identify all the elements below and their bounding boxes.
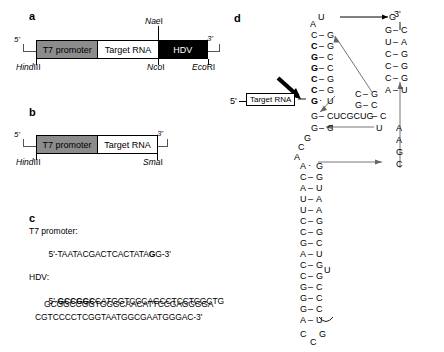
panel-d-right-l2: C — [385, 50, 392, 59]
panel-b-segment-promoter: T7 promoter — [37, 136, 98, 153]
panel-b-three-prime-label: 3' — [157, 129, 163, 138]
panel-d-lower-b2: – — [308, 184, 313, 193]
panel-d-loop-nt-a: A — [310, 20, 316, 29]
panel-d-lower-r10: G — [316, 272, 323, 281]
panel-c-t7-heading: T7 promoter: — [29, 226, 78, 236]
panel-d-lower-r6: G — [316, 228, 323, 237]
panel-b-three-prime-tick — [167, 139, 168, 147]
panel-d-right-r5: U — [401, 86, 408, 95]
panel-d-lower-loop-bottom: C — [310, 338, 317, 347]
panel-d-lower-l0: A — [300, 162, 306, 171]
panel-d-left-stem-r5: G — [327, 86, 334, 95]
panel-b-letter: b — [29, 106, 36, 118]
panel-d-lower-l4: U — [300, 206, 307, 215]
panel-d-lower-l11: G — [300, 283, 307, 292]
panel-d-second-pair-left: G — [311, 124, 318, 133]
panel-a-segment-target: Target RNA — [98, 41, 157, 58]
panel-d-five-prime-lead — [239, 101, 246, 102]
panel-c-t7-seq-post: G-3' — [155, 249, 170, 259]
panel-d-right-l0: G — [385, 26, 392, 35]
panel-d-right-b1: – — [393, 38, 398, 47]
panel-d-lower-l5: C — [300, 217, 307, 226]
panel-d-lower-r11: C — [316, 283, 323, 292]
panel-d-right-b4: – — [393, 74, 398, 83]
panel-d-second-pair-bond: – — [319, 124, 324, 133]
panel-d-left-stem-b3: – — [319, 64, 324, 73]
panel-d-right-tail-u: U — [376, 124, 383, 133]
panel-d-lower-r1: G — [316, 173, 323, 182]
panel-d-right-r0: C — [401, 26, 408, 35]
panel-d-lower-b1: – — [308, 173, 313, 182]
panel-d-lower-r13: C — [316, 305, 323, 314]
panel-d-five-prime-label: 5' — [230, 97, 237, 106]
panel-d-lower-l10: C — [300, 272, 307, 281]
panel-b-bar: T7 promoter Target RNA — [36, 135, 158, 154]
panel-a-enzyme-nae-italic: Nae — [145, 16, 161, 26]
panel-d-left-stem-l4: C — [311, 75, 318, 84]
panel-a-letter: a — [29, 10, 35, 22]
panel-d-lower-b7: – — [308, 239, 313, 248]
panel-a-enzyme-nco-plain: I — [162, 62, 164, 72]
panel-d-left-stem-b5: – — [319, 86, 324, 95]
panel-d-lower-b13: – — [308, 305, 313, 314]
panel-d-lower-l14: A — [300, 316, 306, 325]
panel-a-five-prime-label: 5' — [14, 35, 20, 44]
panel-d-right-r4: G — [401, 74, 408, 83]
panel-a-bar: T7 promoter Target RNA HDV — [36, 40, 208, 59]
panel-d-left-stem-r4: G — [327, 75, 334, 84]
panel-d-second-pair-right: C — [327, 124, 334, 133]
panel-d-lower-r3: A — [316, 195, 322, 204]
panel-d-junction-bond-right: – — [372, 112, 377, 121]
panel-d-target-rna-box: Target RNA — [246, 93, 295, 106]
panel-d-lower-b5: – — [308, 217, 313, 226]
panel-d-right-r2: G — [401, 50, 408, 59]
panel-d-right-r3: G — [401, 62, 408, 71]
panel-a-enzyme-hind-plain: III — [33, 62, 40, 72]
panel-d-rightlow-r0: G — [371, 90, 378, 99]
panel-d-lower-l13: G — [300, 305, 307, 314]
panel-a-enzyme-nco: NcoI — [147, 62, 165, 72]
panel-d-right-l3: C — [385, 62, 392, 71]
panel-a-enzyme-hind: HindIII — [16, 62, 41, 72]
panel-a-five-prime-lead — [23, 51, 36, 52]
panel-d-lower-b6: – — [308, 228, 313, 237]
panel-d-lower-l15: C — [300, 330, 307, 339]
panel-d-rightlow-r1: C — [371, 101, 378, 110]
panel-b-enzyme-hind-italic: Hind — [16, 157, 33, 167]
panel-d-lower-b4: – — [308, 206, 313, 215]
panel-d-rightlow-l1: G — [355, 101, 362, 110]
panel-d-junction-left: G — [311, 112, 318, 121]
panel-d-left-stem-l6: G — [311, 97, 318, 106]
panel-a-three-prime-label: 3' — [207, 34, 213, 43]
panel-d-lower-l8: A — [300, 250, 306, 259]
panel-a-segment-hdv: HDV — [158, 41, 207, 58]
panel-d-left-stem-r6: U — [327, 97, 334, 106]
panel-d-junction-right: C — [380, 112, 387, 121]
panel-b-enzyme-sma: SmaI — [143, 157, 163, 167]
panel-b-five-prime-tick — [23, 139, 24, 147]
panel-d-left-stem-r0: G — [327, 31, 334, 40]
panel-d-left-bulge-1: C — [298, 143, 305, 152]
panel-a-enzyme-eco-italic: Eco — [192, 62, 207, 72]
panel-a-enzyme-hind-italic: Hind — [16, 62, 33, 72]
panel-d-left-stem-r2: C — [327, 53, 334, 62]
panel-d-left-stem-l5: C — [311, 86, 318, 95]
panel-d-left-stem-r1: G — [327, 42, 334, 51]
panel-a-enzyme-nco-italic: Nco — [147, 62, 162, 72]
panel-d-rightlow-b1: – — [363, 101, 368, 110]
panel-d-lower-b8: – — [308, 250, 313, 259]
panel-d-lower-l7: G — [300, 239, 307, 248]
panel-d-lower-r9: G — [316, 261, 323, 270]
panel-c-t7-sequence: 5'-TAATACGACTCACTATAGG-3' — [44, 239, 171, 259]
panel-d-loop-nt-u: U — [318, 13, 325, 22]
panel-c-letter: c — [29, 212, 35, 224]
panel-b-enzyme-hind-plain: III — [33, 157, 40, 167]
panel-a-three-prime-tick — [219, 44, 220, 52]
panel-d-lower-r15: G — [319, 330, 326, 339]
panel-d-right-b3: – — [393, 62, 398, 71]
panel-d-right-tail-2: G — [396, 148, 403, 157]
panel-d-right-tail-1: A — [396, 136, 402, 145]
panel-d-lower-b12: – — [308, 294, 313, 303]
panel-d-lower-r5: G — [316, 217, 323, 226]
panel-d-right-b0: – — [393, 26, 398, 35]
